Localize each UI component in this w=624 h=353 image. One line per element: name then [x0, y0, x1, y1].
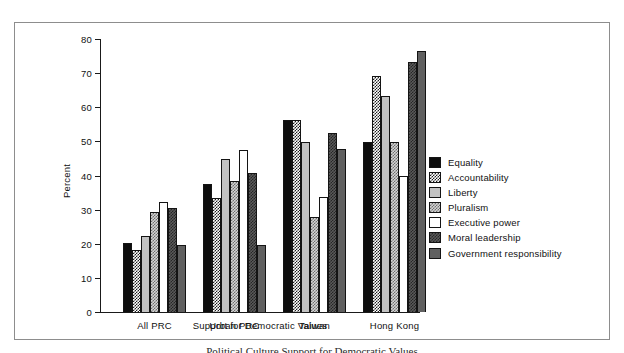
legend-item[interactable]: Liberty [429, 186, 562, 198]
legend-label: Accountability [448, 172, 509, 183]
bar[interactable] [123, 243, 132, 312]
bar[interactable] [390, 142, 399, 312]
bar[interactable] [168, 208, 177, 312]
y-axis-tick-label: 50 [81, 136, 92, 147]
y-axis-tick [95, 312, 100, 313]
bar[interactable] [399, 176, 408, 312]
bar[interactable] [141, 236, 150, 312]
legend-label: Equality [448, 157, 483, 168]
bar[interactable] [292, 120, 301, 312]
bar[interactable] [177, 245, 186, 312]
y-axis-label: Percent [61, 164, 72, 198]
y-axis-tick-label: 70 [81, 68, 92, 79]
bar[interactable] [132, 250, 141, 312]
bar[interactable] [417, 51, 426, 312]
bar[interactable] [239, 150, 248, 312]
x-axis-label: Support for Democratic Values [193, 320, 327, 331]
legend-item[interactable]: Equality [429, 156, 562, 168]
legend-item[interactable]: Accountability [429, 171, 562, 183]
chart-figure: Percent 01020304050607080 All PRCUrban P… [14, 22, 610, 340]
legend-swatch [429, 248, 441, 259]
bar[interactable] [159, 202, 168, 312]
y-axis-tick-label: 80 [81, 34, 92, 45]
legend-item[interactable]: Government responsibility [429, 247, 562, 259]
legend-swatch [429, 217, 441, 228]
legend-swatch [429, 187, 441, 198]
legend-item[interactable]: Moral leadership [429, 232, 562, 244]
bar[interactable] [301, 142, 310, 312]
plot-area: Percent 01020304050607080 All PRCUrban P… [15, 23, 609, 339]
bar[interactable] [283, 120, 292, 312]
bar[interactable] [203, 184, 212, 312]
x-axis-tick-label: All PRC [137, 320, 172, 331]
bar[interactable] [150, 212, 159, 312]
bar[interactable] [248, 173, 257, 312]
y-axis-tick-label: 10 [81, 272, 92, 283]
bar-group [363, 39, 426, 312]
bar[interactable] [408, 62, 417, 312]
bar-group [203, 39, 266, 312]
bar[interactable] [310, 217, 319, 312]
bar[interactable] [319, 197, 328, 312]
legend-item[interactable]: Pluralism [429, 202, 562, 214]
y-axis-tick-label: 60 [81, 102, 92, 113]
bar[interactable] [221, 159, 230, 312]
legend: EqualityAccountabilityLibertyPluralismEx… [429, 156, 562, 259]
legend-swatch [429, 157, 441, 168]
y-axis-tick-label: 0 [87, 307, 92, 318]
bar[interactable] [328, 133, 337, 312]
bar-group [283, 39, 346, 312]
axes: 01020304050607080 All PRCUrban PRCTaiwan… [100, 39, 420, 312]
legend-label: Moral leadership [448, 232, 521, 243]
x-axis-tick-label: Hong Kong [370, 320, 419, 331]
y-axis-tick-label: 30 [81, 204, 92, 215]
bar[interactable] [363, 142, 372, 312]
legend-label: Government responsibility [448, 248, 562, 259]
legend-swatch [429, 202, 441, 213]
bar[interactable] [337, 149, 346, 312]
y-axis-tick-label: 40 [81, 170, 92, 181]
bar[interactable] [257, 245, 266, 312]
legend-label: Pluralism [448, 202, 488, 213]
figure-caption: Political Culture Support for Democratic… [0, 345, 624, 353]
x-axis-line [100, 312, 420, 313]
bar-group [123, 39, 186, 312]
bar[interactable] [212, 198, 221, 312]
legend-label: Executive power [448, 217, 520, 228]
bar[interactable] [230, 181, 239, 312]
bar[interactable] [381, 96, 390, 312]
bar-series-container [100, 39, 420, 312]
legend-label: Liberty [448, 187, 478, 198]
legend-swatch [429, 232, 441, 243]
bar[interactable] [372, 76, 381, 312]
legend-swatch [429, 172, 441, 183]
legend-item[interactable]: Executive power [429, 217, 562, 229]
y-axis-tick-label: 20 [81, 238, 92, 249]
